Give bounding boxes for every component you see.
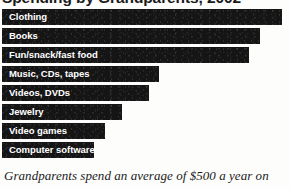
bar-chart-figure: Spending by Grandparents, 2002 Clothing … [0, 0, 290, 187]
bar-row: Videos, DVDs [2, 85, 290, 101]
bar-row: Jewelry [2, 104, 290, 120]
bar-books [2, 28, 260, 44]
chart-title-clip: Spending by Grandparents, 2002 [0, 0, 290, 8]
chart-title: Spending by Grandparents, 2002 [2, 0, 241, 7]
bar-label-clothing: Clothing [9, 9, 47, 25]
bar-list: Clothing Books Fun/snack/fast food Music… [2, 9, 290, 161]
bar-label-music-cds-tapes: Music, CDs, tapes [9, 66, 89, 82]
bar-row: Clothing [2, 9, 290, 25]
bar-label-jewelry: Jewelry [9, 104, 44, 120]
bar-label-video-games: Video games [9, 123, 67, 139]
bar-label-fun-snack-fast-food: Fun/snack/fast food [9, 47, 98, 63]
bar-label-books: Books [9, 28, 38, 44]
bar-label-videos-dvds: Videos, DVDs [9, 85, 70, 101]
bar-row: Books [2, 28, 290, 44]
bar-label-computer-software: Computer software [9, 142, 95, 158]
bar-row: Fun/snack/fast food [2, 47, 290, 63]
bar-row: Video games [2, 123, 290, 139]
figure-caption: Grandparents spend an average of $500 a … [4, 168, 288, 184]
bar-row: Music, CDs, tapes [2, 66, 290, 82]
bar-row: Computer software [2, 142, 290, 158]
